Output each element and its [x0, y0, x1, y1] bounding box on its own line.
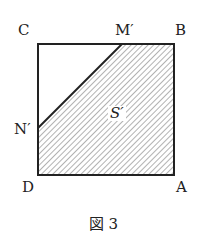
figure-caption: 図 3 [0, 212, 207, 233]
vertex-d-label: D [22, 180, 34, 195]
vertex-c-label: C [18, 23, 29, 38]
point-n-label: N′ [14, 122, 31, 137]
point-m-label: M′ [115, 23, 134, 38]
region-s-label: S′ [108, 106, 126, 121]
vertex-a-label: A [176, 180, 187, 195]
vertex-b-label: B [175, 23, 186, 38]
shaded-region-s [38, 44, 174, 175]
